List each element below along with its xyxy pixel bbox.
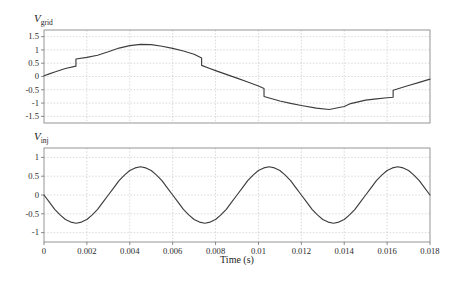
- figure-canvas: Vgrid Vinj Time (s) 1.510.50-0.5-1-1.510…: [0, 0, 457, 284]
- x-tick-label: 0.018: [420, 246, 439, 256]
- y-tick-label: 0.5: [28, 58, 39, 68]
- y-tick-label: 1: [35, 152, 39, 162]
- y-tick-label: 0: [35, 71, 39, 81]
- x-tick-label: 0.014: [335, 246, 355, 256]
- y-tick-label: -1: [32, 227, 39, 237]
- y-tick-label: -1: [32, 98, 39, 108]
- plots-svg: 1.510.50-0.5-1-1.510.50-0.5-100.0020.004…: [0, 0, 457, 284]
- x-tick-label: 0.006: [163, 246, 183, 256]
- y-tick-label: 1.5: [28, 31, 39, 41]
- x-tick-label: 0: [42, 246, 46, 256]
- y-tick-label: -0.5: [25, 209, 39, 219]
- x-tick-label: 0.004: [120, 246, 140, 256]
- x-tick-label: 0.016: [377, 246, 397, 256]
- x-tick-label: 0.01: [251, 246, 266, 256]
- y-tick-label: -1.5: [25, 111, 39, 121]
- y-tick-label: 0: [35, 190, 39, 200]
- y-tick-label: -0.5: [25, 85, 39, 95]
- x-tick-label: 0.002: [77, 246, 96, 256]
- x-tick-label: 0.012: [292, 246, 311, 256]
- x-tick-label: 0.008: [206, 246, 225, 256]
- v_grid-curve: [44, 44, 430, 109]
- y-tick-label: 0.5: [28, 171, 39, 181]
- y-tick-label: 1: [35, 45, 39, 55]
